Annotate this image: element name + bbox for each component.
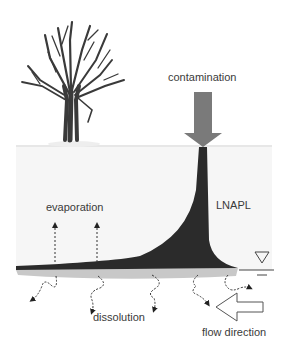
bare-tree-icon: [22, 22, 124, 147]
diagram-canvas: [0, 0, 287, 359]
hollow-left-arrow-icon: [216, 293, 263, 321]
evaporation-label: evaporation: [46, 202, 104, 213]
down-arrow-icon: [184, 92, 222, 147]
contamination-label: contamination: [168, 72, 237, 83]
flow-direction-label: flow direction: [202, 327, 266, 338]
dissolution-label: dissolution: [93, 312, 145, 323]
lnapl-label: LNAPL: [216, 200, 251, 211]
